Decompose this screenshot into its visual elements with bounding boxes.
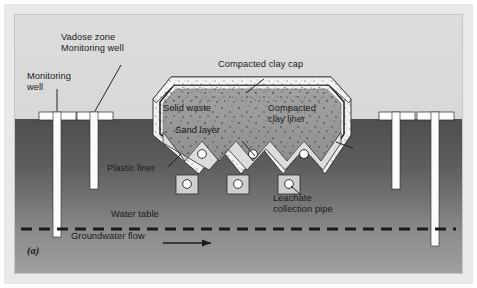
label-plastic-liner: Plastic liner — [107, 163, 155, 174]
label-compacted-clay-cap: Compacted clay cap — [218, 59, 303, 70]
label-leachate-collection-pipe: Leachate collection pipe — [273, 193, 333, 214]
leachate-collection-pipes-lower — [176, 175, 300, 194]
label-compacted-clay-liner: Compacted clay liner — [268, 103, 316, 124]
label-water-table: Water table — [111, 209, 159, 220]
label-vadose-zone-well: Vadose zone Monitoring well — [61, 32, 124, 53]
label-groundwater-flow: Groundwater flow — [71, 231, 145, 242]
label-monitoring-well: Monitoring well — [27, 71, 71, 92]
figure-container: Monitoring well Vadose zone Monitoring w… — [0, 0, 477, 288]
label-sand-layer: Sand layer — [175, 125, 220, 136]
panel-identifier: (a) — [27, 245, 39, 256]
figure-plate: Monitoring well Vadose zone Monitoring w… — [14, 14, 463, 274]
label-solid-waste: Solid waste — [163, 103, 211, 114]
